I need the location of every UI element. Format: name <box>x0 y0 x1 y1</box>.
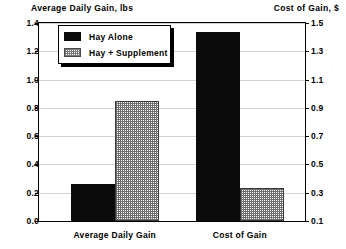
axis-tick <box>305 193 309 194</box>
axis-tick <box>305 164 309 165</box>
axis-tick <box>305 221 309 222</box>
left-tick-label: 0.8 <box>27 103 39 113</box>
left-tick-label: 0.0 <box>27 216 39 226</box>
right-tick-label: 0.1 <box>311 216 323 226</box>
left-tick-label: 0.2 <box>27 188 39 198</box>
right-tick-label: 1.5 <box>311 18 323 28</box>
category-label: Cost of Gain <box>170 230 310 240</box>
bar-hatch <box>240 188 284 221</box>
bar-solid <box>71 184 115 221</box>
left-tick-label: 0.6 <box>27 131 39 141</box>
gridline <box>39 108 305 109</box>
left-tick-label: 1.2 <box>27 46 39 56</box>
category-label: Average Daily Gain <box>45 230 185 240</box>
left-tick-label: 1.0 <box>27 75 39 85</box>
bar-hatch <box>115 101 159 221</box>
right-tick-label: 0.5 <box>311 159 323 169</box>
axis-tick <box>305 80 309 81</box>
chart-legend: Hay Alone Hay + Supplement <box>58 25 171 64</box>
right-tick-label: 1.1 <box>311 75 323 85</box>
right-tick-label: 0.3 <box>311 188 323 198</box>
right-axis-title: Cost of Gain, $ <box>274 3 339 13</box>
axis-tick <box>305 51 309 52</box>
right-tick-label: 0.9 <box>311 103 323 113</box>
left-tick-label: 1.4 <box>27 18 39 28</box>
legend-item-hay-alone: Hay Alone <box>64 30 133 43</box>
legend-label: Hay Alone <box>89 32 133 42</box>
legend-item-hay-supplement: Hay + Supplement <box>64 46 168 59</box>
legend-label: Hay + Supplement <box>89 48 168 58</box>
left-axis-title: Average Daily Gain, lbs <box>31 3 133 13</box>
gridline <box>39 23 305 24</box>
right-tick-label: 0.7 <box>311 131 323 141</box>
axis-tick <box>305 23 309 24</box>
legend-swatch-hatch-icon <box>64 48 81 57</box>
legend-swatch-solid-icon <box>64 32 81 41</box>
right-tick-label: 1.3 <box>311 46 323 56</box>
gridline <box>39 164 305 165</box>
gridline <box>39 80 305 81</box>
axis-tick <box>305 136 309 137</box>
bar-solid <box>196 32 240 222</box>
chart-screenshot: Average Daily Gain, lbs Cost of Gain, $ … <box>0 0 346 249</box>
axis-tick <box>305 108 309 109</box>
left-tick-label: 0.4 <box>27 159 39 169</box>
gridline <box>39 136 305 137</box>
